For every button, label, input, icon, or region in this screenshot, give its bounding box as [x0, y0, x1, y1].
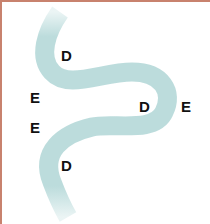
label-d-right-inner: D — [139, 99, 150, 114]
label-d-bottom: D — [61, 158, 72, 173]
label-e-upper-left: E — [30, 90, 40, 105]
diagram-frame: D E D E E D — [0, 0, 210, 224]
wavy-tube-shape — [2, 2, 210, 224]
label-d-top: D — [61, 48, 72, 63]
label-e-right-outer: E — [181, 99, 191, 114]
label-e-lower-left: E — [30, 120, 40, 135]
